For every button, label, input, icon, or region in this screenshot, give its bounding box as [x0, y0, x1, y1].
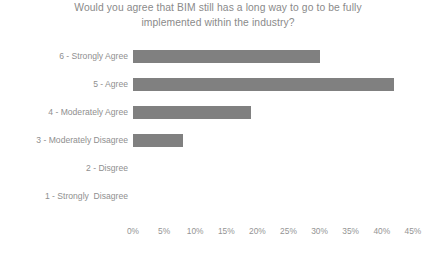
x-tick-label: 45% [393, 225, 433, 237]
category-label: 3 - Moderately Disagree [0, 134, 128, 147]
bar-track [133, 190, 423, 203]
bar-moderately-disagree[interactable] [133, 134, 183, 147]
bar-track [133, 78, 423, 91]
category-label: 6 - Strongly Agree [0, 50, 128, 63]
bar-track [133, 134, 423, 147]
bar-track [133, 50, 423, 63]
bar-chart-figure: Would you agree that BIM still has a lon… [0, 0, 436, 253]
bar-track [133, 162, 423, 175]
bar-strongly-agree[interactable] [133, 50, 320, 63]
category-label: 2 - Disgree [0, 162, 128, 175]
bar-moderately-agree[interactable] [133, 106, 251, 119]
bar-row: 1 - Strongly Disagree [0, 190, 436, 218]
plot-area: 6 - Strongly Agree 5 - Agree 4 - Moderat… [0, 50, 436, 220]
bar-row: 2 - Disgree [0, 162, 436, 190]
x-axis: 0%5%10%15%20%25%30%35%40%45% [0, 225, 436, 239]
chart-title: Would you agree that BIM still has a lon… [40, 1, 396, 30]
category-label: 1 - Strongly Disagree [0, 190, 128, 203]
bar-row: 3 - Moderately Disagree [0, 134, 436, 162]
bar-row: 6 - Strongly Agree [0, 50, 436, 78]
bar-agree[interactable] [133, 78, 394, 91]
category-label: 5 - Agree [0, 78, 128, 91]
category-label: 4 - Moderately Agree [0, 106, 128, 119]
bar-row: 5 - Agree [0, 78, 436, 106]
bar-row: 4 - Moderately Agree [0, 106, 436, 134]
bar-track [133, 106, 423, 119]
